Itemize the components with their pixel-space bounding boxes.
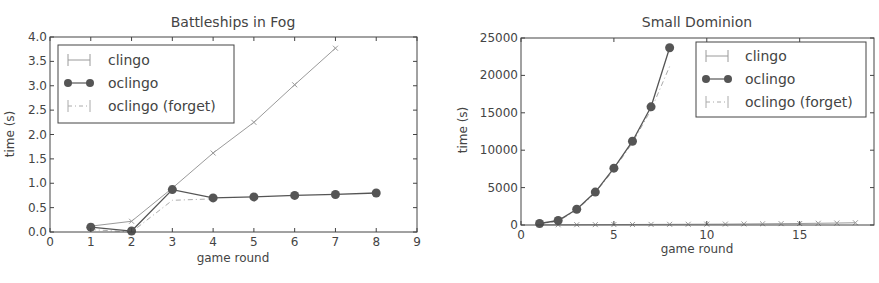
x-tick-label: 9 bbox=[413, 235, 421, 249]
series-line bbox=[540, 66, 670, 223]
legend: clingo oclingo oclingo (forget) bbox=[696, 42, 866, 117]
y-tick-label: 4.0 bbox=[28, 30, 47, 44]
circle-marker-icon bbox=[572, 205, 581, 214]
circle-marker-icon bbox=[535, 219, 544, 228]
x-axis-label: game round bbox=[197, 251, 270, 265]
figure: Battleships in Fog 01234567890.00.51.01.… bbox=[0, 0, 879, 283]
x-tick-label: 8 bbox=[372, 235, 380, 249]
chart-battleships-in-fog: Battleships in Fog 01234567890.00.51.01.… bbox=[3, 14, 421, 265]
legend-label: clingo bbox=[745, 48, 787, 64]
legend-label: oclingo (forget) bbox=[745, 94, 853, 110]
chart-small-dominion: Small Dominion 0510150500010000150002000… bbox=[456, 14, 874, 256]
x-marker-icon bbox=[333, 46, 338, 51]
y-tick-label: 2.0 bbox=[28, 128, 47, 142]
circle-marker-icon bbox=[249, 192, 258, 201]
series-oclingo bbox=[86, 185, 380, 235]
x-tick-label: 0 bbox=[46, 235, 54, 249]
y-tick-label: 5000 bbox=[487, 181, 518, 195]
x-tick-label: 4 bbox=[209, 235, 217, 249]
x-marker-icon bbox=[251, 120, 256, 125]
x-tick-label: 3 bbox=[169, 235, 177, 249]
legend-label: oclingo (forget) bbox=[108, 98, 216, 114]
y-tick-label: 1.5 bbox=[28, 152, 47, 166]
circle-marker-icon bbox=[591, 188, 600, 197]
x-tick-label: 2 bbox=[128, 235, 136, 249]
figure-canvas: Battleships in Fog 01234567890.00.51.01.… bbox=[0, 0, 879, 283]
y-axis-label: time (s) bbox=[456, 107, 470, 154]
circle-marker-icon bbox=[209, 193, 218, 202]
circle-marker-icon bbox=[86, 79, 94, 87]
x-tick-label: 6 bbox=[291, 235, 299, 249]
y-tick-label: 3.5 bbox=[28, 54, 47, 68]
x-tick-label: 1 bbox=[87, 235, 95, 249]
chart-title: Small Dominion bbox=[642, 14, 752, 30]
legend-label: oclingo bbox=[745, 71, 795, 87]
x-axis-label: game round bbox=[661, 242, 734, 256]
circle-marker-icon bbox=[724, 75, 732, 83]
x-tick-label: 10 bbox=[699, 228, 714, 242]
y-tick-label: 2.5 bbox=[28, 103, 47, 117]
x-marker-icon bbox=[211, 151, 216, 156]
series-line bbox=[91, 199, 213, 232]
y-axis-label: time (s) bbox=[3, 111, 17, 158]
x-tick-label: 7 bbox=[332, 235, 340, 249]
circle-marker-icon bbox=[702, 75, 710, 83]
series-oclingo-forget bbox=[540, 66, 670, 223]
circle-marker-icon bbox=[372, 189, 381, 198]
y-tick-label: 10000 bbox=[480, 143, 518, 157]
y-tick-label: 0 bbox=[510, 218, 518, 232]
series-line bbox=[540, 48, 670, 224]
legend-label: oclingo bbox=[108, 75, 158, 91]
legend-label: clingo bbox=[108, 52, 150, 68]
chart-title: Battleships in Fog bbox=[171, 14, 296, 30]
legend: clingo oclingo oclingo (forget) bbox=[58, 45, 234, 123]
circle-marker-icon bbox=[628, 137, 637, 146]
y-tick-label: 0.0 bbox=[28, 225, 47, 239]
circle-marker-icon bbox=[168, 185, 177, 194]
x-tick-label: 5 bbox=[610, 228, 618, 242]
y-tick-label: 0.5 bbox=[28, 201, 47, 215]
y-tick-label: 3.0 bbox=[28, 79, 47, 93]
legend-entry-oclingo-forget: oclingo (forget) bbox=[706, 94, 853, 110]
x-tick-label: 5 bbox=[250, 235, 258, 249]
series-oclingo bbox=[535, 43, 674, 228]
y-tick-label: 15000 bbox=[480, 106, 518, 120]
circle-marker-icon bbox=[64, 79, 72, 87]
series-oclingo-forget bbox=[91, 199, 213, 232]
y-tick-label: 1.0 bbox=[28, 176, 47, 190]
circle-marker-icon bbox=[331, 190, 340, 199]
x-tick-label: 0 bbox=[517, 228, 525, 242]
circle-marker-icon bbox=[665, 43, 674, 52]
y-tick-label: 20000 bbox=[480, 68, 518, 82]
circle-marker-icon bbox=[647, 102, 656, 111]
series-clingo bbox=[537, 220, 858, 227]
circle-marker-icon bbox=[554, 216, 563, 225]
x-marker-icon bbox=[292, 82, 297, 87]
circle-marker-icon bbox=[609, 164, 618, 173]
y-tick-label: 25000 bbox=[480, 31, 518, 45]
circle-marker-icon bbox=[290, 191, 299, 200]
legend-entry-oclingo-forget: oclingo (forget) bbox=[68, 98, 216, 114]
x-tick-label: 15 bbox=[792, 228, 807, 242]
